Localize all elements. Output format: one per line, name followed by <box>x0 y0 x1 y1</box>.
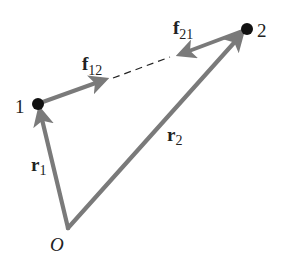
particle-1-label: 1 <box>15 96 25 117</box>
particle-2-dot <box>241 23 253 35</box>
r1-label: r1 <box>31 154 46 178</box>
f12-force-arrow <box>40 80 104 103</box>
line-of-action-dashed <box>113 57 170 78</box>
origin-dot <box>66 226 70 230</box>
r1-subscript: 1 <box>39 163 46 178</box>
origin-label: O <box>50 234 64 255</box>
r2-subscript: 2 <box>175 133 182 148</box>
f12-subscript: 12 <box>88 63 102 78</box>
particle-2-label: 2 <box>257 20 267 41</box>
particle-1-dot <box>32 98 44 110</box>
f21-subscript: 21 <box>179 27 193 42</box>
f12-label: f12 <box>82 53 102 78</box>
vector-diagram: 1 2 O f12 f21 r1 r2 <box>0 0 288 267</box>
f21-label: f21 <box>173 17 193 42</box>
r2-label: r2 <box>167 124 182 148</box>
